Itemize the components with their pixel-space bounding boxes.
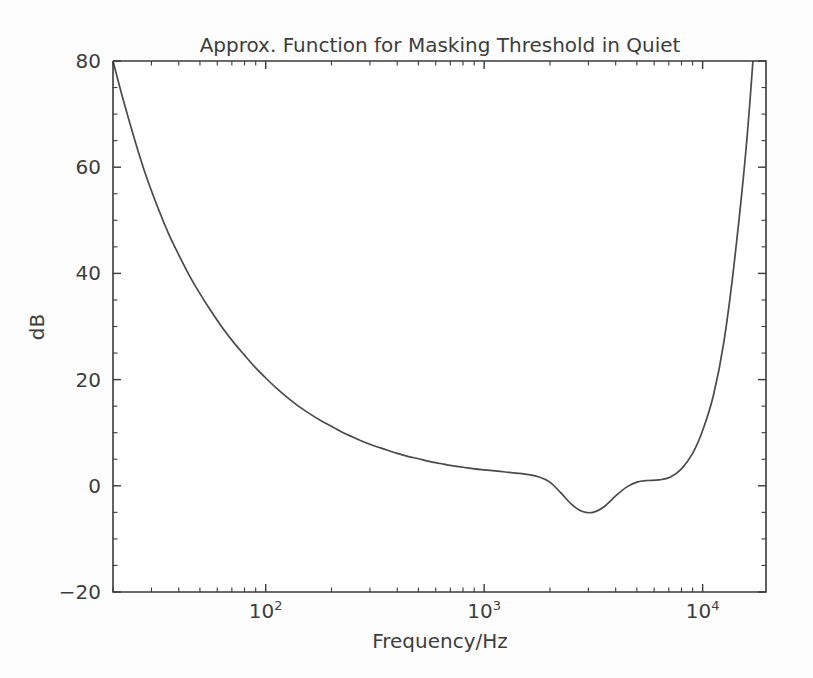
x-axis-tick-labels: 102103104 — [249, 598, 720, 623]
x-tick-label: 104 — [686, 598, 720, 623]
y-tick-label: 0 — [88, 474, 101, 498]
line-chart: 102103104 −20020406080 Approx. Function … — [0, 0, 813, 678]
y-tick-label: 60 — [76, 155, 101, 179]
y-tick-label: 80 — [76, 49, 101, 73]
chart-page: 102103104 −20020406080 Approx. Function … — [0, 0, 813, 678]
plot-background — [113, 61, 766, 592]
y-tick-label: 20 — [76, 368, 101, 392]
y-axis-title: dB — [25, 314, 49, 340]
y-tick-label: −20 — [59, 580, 101, 604]
x-axis-title: Frequency/Hz — [372, 629, 508, 653]
figure-canvas: 102103104 −20020406080 Approx. Function … — [0, 0, 813, 678]
x-tick-label: 102 — [249, 598, 283, 623]
y-axis-tick-labels: −20020406080 — [59, 49, 101, 604]
x-tick-label: 103 — [467, 598, 501, 623]
chart-title: Approx. Function for Masking Threshold i… — [200, 33, 681, 57]
y-tick-label: 40 — [76, 261, 101, 285]
